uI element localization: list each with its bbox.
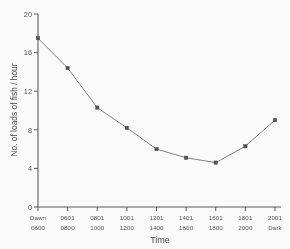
chart-background xyxy=(0,0,290,249)
data-point-marker xyxy=(184,156,187,159)
data-point-marker xyxy=(214,161,217,164)
x-axis-tick-label-top: 1201 xyxy=(149,214,164,221)
x-axis-tick-label-bottom: 1600 xyxy=(179,224,194,231)
data-point-marker xyxy=(66,66,69,69)
data-point-marker xyxy=(125,126,128,129)
y-axis-tick-label: 16 xyxy=(24,48,32,57)
x-axis-tick-label-bottom: 1400 xyxy=(149,224,164,231)
x-axis-tick-label-top: 1401 xyxy=(179,214,194,221)
y-axis-tick-label: 4 xyxy=(28,164,32,173)
x-axis-tick-label-top: 0601 xyxy=(61,214,76,221)
data-point-marker xyxy=(36,36,39,39)
x-axis-tick-label-top: 1001 xyxy=(120,214,135,221)
y-axis-tick-label: 0 xyxy=(28,203,32,212)
x-axis-tick-label-bottom: 1000 xyxy=(90,224,105,231)
fish-loads-line-chart: 048121620 Dawn06010801100112011401160118… xyxy=(0,0,290,249)
x-axis-title: Time xyxy=(150,235,170,245)
x-axis-tick-label-bottom: 2000 xyxy=(238,224,253,231)
x-axis-tick-labels-row2: 06000800100012001400160018002000Dark xyxy=(31,224,283,231)
x-axis-tick-label-bottom: 1800 xyxy=(209,224,224,231)
y-axis-tick-label: 12 xyxy=(24,87,32,96)
x-axis-tick-label-top: 2001 xyxy=(268,214,283,221)
x-axis-tick-label-top: 1801 xyxy=(238,214,253,221)
data-point-marker xyxy=(244,145,247,148)
data-point-marker xyxy=(273,118,276,121)
y-axis-tick-label: 20 xyxy=(24,10,32,19)
x-axis-tick-label-bottom: 0800 xyxy=(61,224,76,231)
x-axis-tick-label-bottom: 1200 xyxy=(120,224,135,231)
data-point-marker xyxy=(155,147,158,150)
x-axis-tick-label-top: 0801 xyxy=(90,214,105,221)
x-axis-tick-labels-row1: Dawn06010801100112011401160118012001 xyxy=(30,214,283,221)
x-axis-tick-label-top: Dawn xyxy=(30,214,47,221)
x-axis-tick-label-bottom: 0600 xyxy=(31,224,46,231)
y-axis-title: No. of loads of fish / hour xyxy=(9,63,19,156)
x-axis-tick-label-top: 1601 xyxy=(209,214,224,221)
chart-svg: 048121620 Dawn06010801100112011401160118… xyxy=(0,0,290,249)
data-point-marker xyxy=(96,106,99,109)
x-axis-tick-label-bottom: Dark xyxy=(268,224,282,231)
y-axis-tick-label: 8 xyxy=(28,126,32,135)
